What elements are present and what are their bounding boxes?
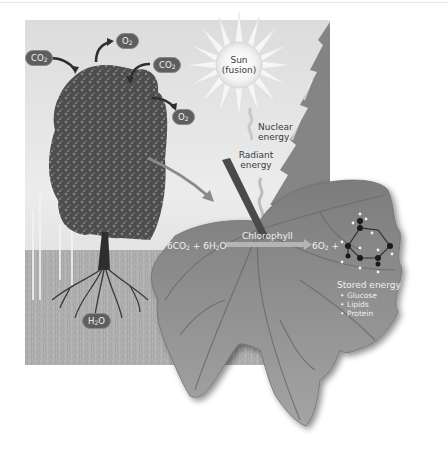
h2o-label-root: H2O — [82, 313, 111, 329]
equation-products: 6O2 + — [312, 241, 339, 253]
sun-label-line1: Sun — [219, 55, 259, 65]
co2-label-left: CO2 — [25, 50, 53, 66]
stored-energy-list: Glucose Lipids Protein — [337, 291, 401, 318]
equation-reactants: 6CO2 + 6H2O — [167, 241, 227, 253]
stored-energy-item: Protein — [337, 309, 401, 318]
radiant-label-line2: energy — [236, 160, 276, 170]
radiant-energy-label: Radiant energy — [236, 150, 276, 170]
o2-label-top: O2 — [116, 33, 139, 49]
sun-label-line2: (fusion) — [219, 65, 259, 75]
stored-energy-item: Lipids — [337, 300, 401, 309]
chlorophyll-label: Chlorophyll — [242, 231, 293, 241]
nuclear-energy-label: Nuclear energy — [258, 122, 293, 142]
sun-label: Sun (fusion) — [219, 55, 259, 75]
co2-label-right: CO2 — [153, 57, 181, 73]
stored-energy-item: Glucose — [337, 291, 401, 300]
o2-label-right: O2 — [172, 109, 195, 125]
radiant-label-line1: Radiant — [236, 150, 276, 160]
chlorophyll-arrow — [226, 242, 304, 247]
nuclear-label-line1: Nuclear — [258, 122, 293, 132]
stored-energy-title: Stored energy — [337, 280, 401, 291]
nuclear-label-line2: energy — [258, 132, 293, 142]
stored-energy-block: Stored energy Glucose Lipids Protein — [337, 280, 401, 318]
